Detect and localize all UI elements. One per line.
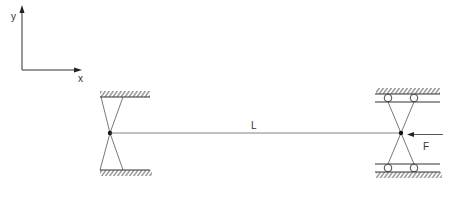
roller-icon [384, 164, 392, 172]
right-top-wall-hatch [376, 88, 440, 94]
y-axis-arrowhead-icon [20, 5, 25, 13]
left-strut [110, 97, 123, 133]
coordinate-axes: y x [11, 5, 83, 84]
right-pivot-icon [399, 131, 403, 135]
right-strut [388, 133, 401, 164]
roller-icon [384, 94, 392, 102]
x-axis-arrowhead-icon [74, 68, 82, 73]
left-support [100, 91, 152, 176]
left-strut [100, 133, 110, 170]
right-strut [401, 102, 414, 133]
left-bottom-wall-hatch [100, 170, 152, 176]
beam-length-label: L [251, 120, 257, 131]
force-arrowhead-icon [407, 132, 414, 137]
right-bottom-wall-hatch [376, 172, 442, 178]
roller-icon [410, 164, 418, 172]
roller-icon [410, 94, 418, 102]
right-strut [401, 133, 414, 164]
left-strut [101, 97, 110, 133]
load-force: F [407, 132, 443, 152]
left-top-wall-hatch [100, 91, 150, 97]
force-label: F [423, 141, 429, 152]
diagram-canvas: y x L F [0, 0, 459, 201]
y-axis-label: y [11, 11, 16, 22]
beam: L [110, 120, 401, 133]
right-strut [388, 102, 401, 133]
left-strut [110, 133, 123, 170]
x-axis-label: x [78, 73, 83, 84]
